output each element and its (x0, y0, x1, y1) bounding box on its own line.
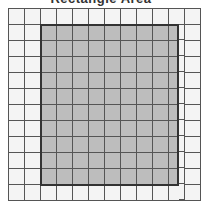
shaded-grid-cell (89, 41, 105, 57)
grid-cell (185, 25, 201, 41)
shaded-grid-cell (57, 153, 73, 169)
shaded-grid-cell (57, 121, 73, 137)
grid-cell (25, 57, 41, 73)
shaded-grid-cell (153, 153, 169, 169)
shaded-grid-cell (137, 41, 153, 57)
grid-cell (9, 9, 25, 25)
grid-line (179, 55, 184, 56)
grid-cell (121, 185, 137, 201)
grid-cell (185, 9, 201, 25)
shaded-grid-cell (105, 57, 121, 73)
grid-cell (185, 121, 201, 137)
grid-cell (105, 185, 121, 201)
shaded-grid-cell (41, 25, 57, 41)
shaded-grid-cell (105, 169, 121, 185)
shaded-grid-cell (41, 73, 57, 89)
shaded-grid-cell (105, 153, 121, 169)
grid-cell (9, 137, 25, 153)
grid-cell (137, 9, 153, 25)
grid-cell (73, 9, 89, 25)
grid-line (179, 183, 184, 184)
shaded-grid-cell (153, 25, 169, 41)
shaded-grid-cell (137, 57, 153, 73)
shaded-grid-cell (57, 105, 73, 121)
shaded-grid-cell (105, 121, 121, 137)
shaded-grid-cell (121, 153, 137, 169)
grid-cell (25, 137, 41, 153)
shaded-grid-cell (57, 57, 73, 73)
shaded-grid-cell (121, 41, 137, 57)
shaded-grid-cell (57, 25, 73, 41)
shaded-grid-cell (105, 25, 121, 41)
grid-line (179, 87, 184, 88)
shaded-grid-cell (121, 89, 137, 105)
grid-cell (89, 9, 105, 25)
grid-cell (25, 105, 41, 121)
grid-cell (169, 9, 185, 25)
shaded-grid-cell (73, 73, 89, 89)
grid-cell (25, 89, 41, 105)
shaded-grid-cell (73, 105, 89, 121)
grid-cell (185, 153, 201, 169)
shaded-grid-cell (73, 25, 89, 41)
shaded-grid-cell (41, 121, 57, 137)
grid-cell (9, 153, 25, 169)
shaded-grid-cell (41, 57, 57, 73)
grid-cell (185, 185, 201, 201)
diagram-title: Rectangle Area (0, 0, 202, 6)
shaded-grid-cell (73, 89, 89, 105)
shaded-grid-cell (41, 41, 57, 57)
grid-cell (185, 89, 201, 105)
shaded-grid-cell (105, 105, 121, 121)
shaded-grid-cell (41, 137, 57, 153)
shaded-grid-cell (137, 25, 153, 41)
shaded-grid-cell (121, 73, 137, 89)
shaded-grid-cell (41, 105, 57, 121)
shaded-grid-cell (89, 153, 105, 169)
shaded-grid-cell (137, 105, 153, 121)
shaded-grid-cell (153, 73, 169, 89)
shaded-grid-cell (137, 137, 153, 153)
grid-cell (25, 153, 41, 169)
grid-cell (73, 185, 89, 201)
shaded-grid-cell (57, 89, 73, 105)
grid-cell (89, 185, 105, 201)
shaded-grid-cell (89, 105, 105, 121)
shaded-grid-cell (57, 169, 73, 185)
grid-cell (9, 169, 25, 185)
grid-cell (25, 9, 41, 25)
shaded-grid-cell (121, 57, 137, 73)
shaded-grid-cell (57, 137, 73, 153)
shaded-grid-cell (137, 153, 153, 169)
grid-line (179, 199, 184, 200)
shaded-grid-cell (89, 57, 105, 73)
shaded-grid-cell (121, 121, 137, 137)
shaded-grid-cell (73, 57, 89, 73)
grid-cell (9, 185, 25, 201)
grid-cell (185, 41, 201, 57)
shaded-grid-cell (153, 57, 169, 73)
grid-cell (185, 169, 201, 185)
grid-cell (25, 169, 41, 185)
grid-line (179, 103, 184, 104)
grid-cell (185, 137, 201, 153)
shaded-grid-cell (153, 105, 169, 121)
shaded-grid-cell (89, 169, 105, 185)
grid-cell (57, 9, 73, 25)
shaded-grid-cell (73, 153, 89, 169)
grid-cell (41, 9, 57, 25)
shaded-grid-cell (73, 121, 89, 137)
shaded-grid-cell (57, 73, 73, 89)
grid-cell (9, 25, 25, 41)
grid-cell (185, 105, 201, 121)
grid-cell (41, 185, 57, 201)
shaded-grid-cell (73, 41, 89, 57)
shaded-grid-cell (105, 137, 121, 153)
grid-cell (153, 9, 169, 25)
grid-line (179, 119, 184, 120)
grid-cell (9, 121, 25, 137)
grid-cell (9, 41, 25, 57)
grid-cell (25, 185, 41, 201)
grid-cell (185, 73, 201, 89)
grid-cell (153, 185, 169, 201)
